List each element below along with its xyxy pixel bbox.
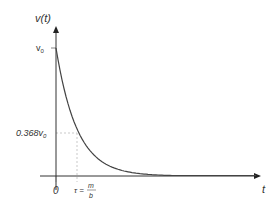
y-axis-label: v(t) (35, 12, 51, 24)
tau-numerator: m (88, 182, 94, 189)
v0-sub: 0 (41, 48, 45, 54)
y-axis-arrow-icon (53, 26, 59, 33)
tau-denominator: b (89, 192, 93, 199)
tau-label: τ = (74, 186, 84, 195)
mid-value-label: 0.368v0 (16, 128, 47, 139)
origin-label: 0 (53, 185, 59, 196)
mid-base: 0.368v (16, 128, 44, 138)
x-axis-label: t (262, 183, 266, 195)
v0-label: v0 (36, 43, 45, 54)
velocity-curve (56, 48, 256, 176)
mid-sub: 0 (43, 133, 47, 139)
chart: v(t) t v0 0.368v0 0 τ = m b (0, 0, 278, 213)
